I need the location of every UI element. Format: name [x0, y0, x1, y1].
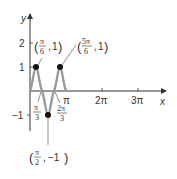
svg-text:): ) [58, 39, 62, 54]
y-tick-label-1: 1 [19, 62, 25, 73]
svg-text:(: ( [29, 150, 34, 165]
x-tick-label-2pi: 2π [95, 95, 108, 106]
svg-text:,: , [43, 152, 46, 163]
y-axis-label: y [20, 13, 27, 24]
intercept-label-pi-3: π 3 [33, 103, 41, 122]
svg-text:): ) [64, 150, 68, 165]
svg-text:6: 6 [40, 47, 44, 56]
annotation-5pi-6: ( 5π 6 , 1 ) [77, 37, 108, 56]
x-axis-label: x [159, 96, 166, 107]
svg-text:3: 3 [60, 114, 64, 123]
svg-text:−1: −1 [48, 152, 60, 163]
svg-text:,: , [48, 41, 51, 52]
svg-text:): ) [104, 39, 108, 54]
svg-text:π: π [35, 148, 39, 157]
svg-text:5π: 5π [82, 37, 90, 46]
annotation-pi-2: ( π 2 , −1 ) [29, 148, 68, 167]
svg-text:2: 2 [35, 158, 39, 167]
svg-text:π: π [34, 103, 38, 112]
svg-text:π: π [40, 37, 44, 46]
svg-text:(: ( [34, 39, 39, 54]
sine-graph: y x π 2π 3π 2 1 −1 π 3 2π 3 ( π 6 , 1 ) … [0, 0, 177, 179]
annotation-pi-6: ( π 6 , 1 ) [34, 37, 62, 56]
intercept-label-2pi-3: 2π 3 [57, 104, 67, 123]
svg-text:6: 6 [84, 47, 88, 56]
x-tick-label-3pi: 3π [131, 95, 144, 106]
leader-int1 [38, 92, 41, 102]
leader-int2 [55, 92, 60, 103]
y-tick-label-2: 2 [19, 38, 25, 49]
svg-text:3: 3 [35, 113, 39, 122]
svg-text:2π: 2π [57, 104, 65, 113]
leader-ann2 [62, 45, 76, 65]
y-tick-label-m1: −1 [12, 110, 24, 121]
svg-text:,: , [94, 41, 97, 52]
leader-ann1 [38, 58, 42, 65]
